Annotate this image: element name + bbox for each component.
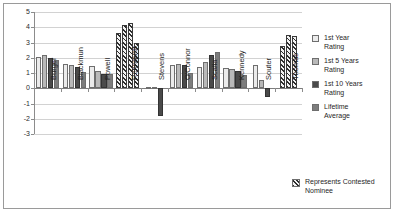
y-axis-label--3: -3 <box>14 130 30 138</box>
legend-label-0: 1st YearRating <box>324 34 349 51</box>
y-axis-label-1: 1 <box>14 69 30 77</box>
y-axis-label-0: 0 <box>14 84 30 92</box>
category-label-oconnor: O'Connor <box>184 48 192 80</box>
chart-container: 543210-1-2-3 BurgerBlackmunPowellRehnqui… <box>0 0 394 216</box>
legend-label-2-line1: 1st 10 Years <box>324 80 363 89</box>
legend-item-2: 1st 10 YearsRating <box>312 80 388 97</box>
bar-powell-series0 <box>89 66 94 88</box>
category-label-kennedy: Kennedy <box>238 51 246 81</box>
y-axis-label-2: 2 <box>14 54 30 62</box>
category-label-burger: Burger <box>50 58 58 81</box>
category-label-thomas: Thomas <box>292 53 300 80</box>
bar-kennedy-series0 <box>223 68 228 89</box>
bar-oconnor-series0 <box>170 65 175 89</box>
y-axis-label--1: -1 <box>14 100 30 108</box>
x-tick-0 <box>61 88 62 92</box>
x-tick-8 <box>275 88 276 92</box>
category-label-souter: Souter <box>265 58 273 80</box>
bar-stevens-series1 <box>152 87 157 89</box>
x-tick-5 <box>195 88 196 92</box>
legend-label-0-line1: 1st Year <box>324 34 349 43</box>
legend-item-3: LifetimeAverage <box>312 103 388 120</box>
bar-rehnquist-series1 <box>122 25 127 88</box>
x-tick-9 <box>302 88 303 92</box>
bar-oconnor-series1 <box>176 64 181 88</box>
contested-note-line1: Represents Contested <box>305 178 375 187</box>
legend-swatch-icon-2 <box>312 81 319 88</box>
x-tick-2 <box>114 88 115 92</box>
legend-label-0-line2: Rating <box>324 43 349 52</box>
bar-souter-series2 <box>265 88 270 96</box>
contested-note-text: Represents Contested Nominee <box>305 178 375 195</box>
x-tick-4 <box>168 88 169 92</box>
y-axis-label-3: 3 <box>14 39 30 47</box>
x-tick-1 <box>88 88 89 92</box>
bar-scalia-series1 <box>203 62 208 88</box>
legend-swatch-icon-1 <box>312 58 319 65</box>
bar-powell-series1 <box>95 71 100 89</box>
bar-rehnquist-series0 <box>116 33 121 88</box>
y-axis-label-4: 4 <box>14 23 30 31</box>
bar-souter-series0 <box>253 65 258 89</box>
bar-burger-series1 <box>42 55 47 89</box>
category-label-powell: Powell <box>104 58 112 80</box>
category-label-stevens: Stevens <box>158 53 166 80</box>
y-axis-label--2: -2 <box>14 115 30 123</box>
hatch-swatch-icon <box>292 179 300 187</box>
contested-note-line2: Nominee <box>305 187 375 196</box>
legend-item-0: 1st YearRating <box>312 34 388 51</box>
legend-label-2-line2: Rating <box>324 89 363 98</box>
bar-thomas-series0 <box>280 46 285 89</box>
legend-label-1-line1: 1st 5 Years <box>324 57 359 66</box>
x-tick-7 <box>248 88 249 92</box>
bar-souter-series1 <box>259 80 264 88</box>
legend-label-3-line1: Lifetime <box>324 103 350 112</box>
bar-kennedy-series1 <box>229 69 234 88</box>
category-label-rehnquist: Rehnquist <box>131 46 139 80</box>
legend-label-1-line2: Rating <box>324 66 359 75</box>
x-tick-3 <box>141 88 142 92</box>
x-axis-category-labels: BurgerBlackmunPowellRehnquistStevensO'Co… <box>34 100 302 170</box>
legend-label-1: 1st 5 YearsRating <box>324 57 359 74</box>
contested-nominee-note: Represents Contested Nominee <box>292 178 392 195</box>
category-label-blackmun: Blackmun <box>77 47 85 80</box>
bar-burger-series0 <box>36 57 41 88</box>
bar-stevens-series0 <box>146 87 151 89</box>
bar-scalia-series0 <box>197 67 202 88</box>
legend-swatch-icon-0 <box>312 35 319 42</box>
legend-swatch-icon-3 <box>312 104 319 111</box>
x-tick-6 <box>222 88 223 92</box>
legend-label-2: 1st 10 YearsRating <box>324 80 363 97</box>
bar-blackmun-series0 <box>63 64 68 88</box>
legend-label-3: LifetimeAverage <box>324 103 350 120</box>
category-label-scalia: Scalia <box>211 60 219 80</box>
bar-blackmun-series1 <box>69 65 74 88</box>
y-axis-label-5: 5 <box>14 8 30 16</box>
legend-item-1: 1st 5 YearsRating <box>312 57 388 74</box>
chart-legend: 1st YearRating1st 5 YearsRating1st 10 Ye… <box>312 34 388 126</box>
legend-label-3-line2: Average <box>324 112 350 121</box>
